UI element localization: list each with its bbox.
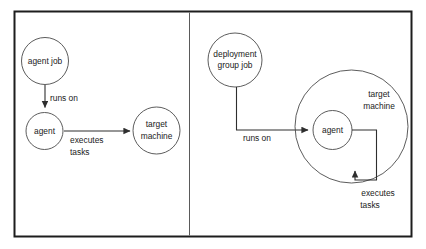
edge-agent-to-machine-loop: [352, 130, 377, 180]
edge-runs-on-label: runs on: [50, 93, 78, 103]
edge-deployment-job-to-agent: [237, 87, 309, 130]
node-deployment-group-job-label-line1: deployment: [213, 49, 257, 59]
diagram-root: agent job runs on agent executes tasks t…: [0, 0, 426, 249]
node-agent-inner-label: agent: [322, 125, 344, 135]
edge-executes-tasks-right-label-line2: tasks: [360, 200, 380, 210]
edge-executes-tasks-label-line2: tasks: [70, 147, 90, 157]
node-target-machine-label-line1: target: [146, 119, 168, 129]
agent-job-panel: agent job runs on agent executes tasks t…: [22, 38, 181, 158]
node-target-machine-container-label-line1: target: [368, 89, 390, 99]
node-deployment-group-job-label-line2: group job: [218, 60, 253, 70]
node-agent-label: agent: [34, 126, 56, 136]
deployment-group-job-panel: deployment group job runs on target mach…: [208, 33, 408, 210]
edge-runs-on-right-label: runs on: [243, 133, 271, 143]
node-agent-job-label: agent job: [28, 56, 63, 66]
edge-executes-tasks-label-line1: executes: [70, 135, 104, 145]
node-target-machine-container-label-line2: machine: [363, 101, 395, 111]
node-target-machine-label-line2: machine: [141, 131, 173, 141]
diagram-canvas: agent job runs on agent executes tasks t…: [0, 0, 426, 249]
edge-executes-tasks-right-label-line1: executes: [361, 188, 395, 198]
